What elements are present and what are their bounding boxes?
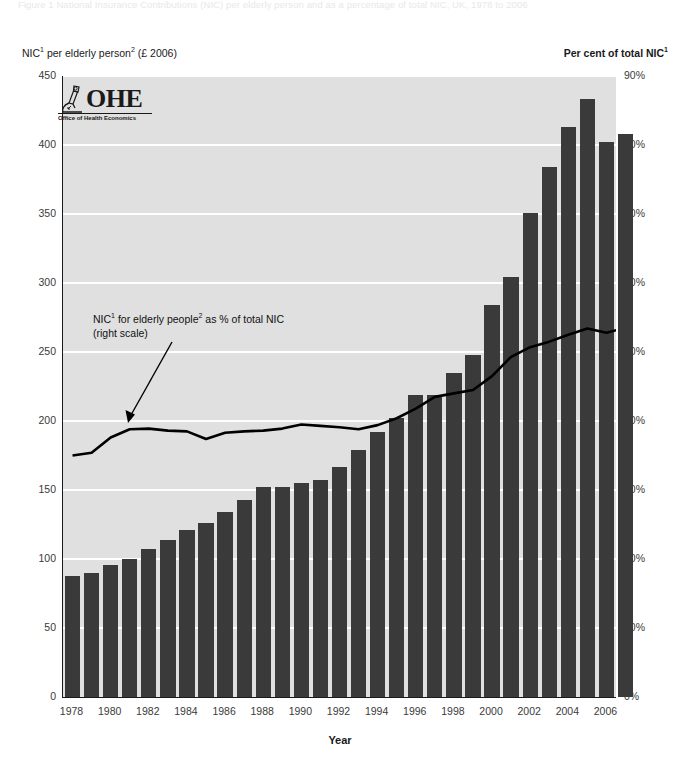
y-axis-tick-label-right: 70%: [624, 207, 664, 219]
annotation-l1-a: NIC: [93, 313, 111, 325]
left-axis-title-suffix: (£ 2006): [135, 47, 177, 59]
y-axis-tick-label-left: 350: [22, 207, 56, 219]
y-axis-tick-label-left: 100: [22, 552, 56, 564]
annotation-l1-c: as % of total NIC: [202, 313, 284, 325]
plot-inner: [63, 76, 616, 697]
y-axis-tick-label-left: 400: [22, 138, 56, 150]
y-axis-tick-label-left: 450: [22, 69, 56, 81]
left-axis-title: NIC1 per elderly person2 (£ 2006): [22, 46, 177, 59]
percent-line-series: [63, 76, 616, 697]
figure-caption: Figure 1 National Insurance Contribution…: [18, 0, 528, 10]
plot-area: [62, 76, 616, 698]
y-axis-tick-label-left: 200: [22, 414, 56, 426]
y-axis-tick-label-right: 30%: [624, 483, 664, 495]
series-annotation: NIC1 for elderly people2 as % of total N…: [93, 309, 284, 340]
y-axis-tick-label-right: 50%: [624, 345, 664, 357]
annotation-l1-b: for elderly people: [115, 313, 198, 325]
y-axis-tick-label-left: 0: [22, 690, 56, 702]
right-axis-title-text: Per cent of total NIC: [564, 47, 664, 59]
y-axis-tick-label-right: 10%: [624, 621, 664, 633]
left-axis-title-prefix: NIC: [22, 47, 40, 59]
x-axis-label: Year: [0, 734, 680, 746]
ohe-logo: OHE Office of Health Economics: [58, 84, 154, 128]
ohe-strapline: Office of Health Economics: [58, 115, 136, 121]
y-axis-tick-label-left: 50: [22, 621, 56, 633]
ohe-wordmark: OHE: [86, 84, 142, 114]
percent-line-path: [73, 328, 616, 456]
y-axis-tick-label-right: 60%: [624, 276, 664, 288]
y-axis-tick-label-left: 150: [22, 483, 56, 495]
y-axis-tick-label-right: 40%: [624, 414, 664, 426]
ohe-logo-rule: [58, 113, 152, 114]
right-axis-title: Per cent of total NIC1: [564, 46, 668, 59]
figure-container: Figure 1 National Insurance Contribution…: [0, 0, 680, 783]
y-axis-tick-label-right: 0%: [624, 690, 664, 702]
y-axis-tick-label-right: 90%: [624, 69, 664, 81]
annotation-line-1: NIC1 for elderly people2 as % of total N…: [93, 309, 284, 326]
left-axis-title-mid: per elderly person: [44, 47, 131, 59]
annotation-line-2: (right scale): [93, 326, 284, 340]
x-axis-tick-label: 2006: [583, 705, 627, 717]
y-axis-tick-label-left: 300: [22, 276, 56, 288]
y-axis-tick-label-right: 20%: [624, 552, 664, 564]
y-axis-tick-label-right: 80%: [624, 138, 664, 150]
right-axis-title-sup: 1: [664, 46, 668, 53]
y-axis-tick-label-left: 250: [22, 345, 56, 357]
